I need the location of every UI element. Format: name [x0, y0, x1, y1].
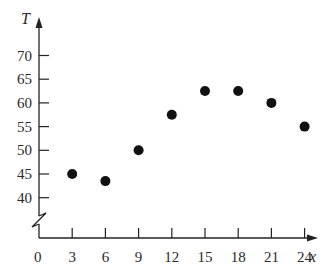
- y-tick-label: 45: [17, 166, 32, 182]
- data-point: [100, 176, 110, 186]
- y-tick-label: 70: [17, 48, 32, 64]
- y-tick-label: 50: [17, 142, 32, 158]
- x-origin-label: 0: [34, 249, 42, 265]
- data-point: [233, 86, 243, 96]
- data-points: [67, 86, 309, 186]
- y-tick-label: 65: [17, 71, 32, 87]
- x-axis-arrow-icon: [307, 235, 318, 242]
- data-point: [266, 98, 276, 108]
- data-point: [67, 169, 77, 179]
- x-tick-label: 15: [198, 249, 213, 265]
- axes: [32, 17, 318, 242]
- x-tick-label: 12: [164, 249, 179, 265]
- y-ticks: 40455055606570: [17, 48, 49, 206]
- y-tick-label: 40: [17, 190, 32, 206]
- y-axis-label: T: [21, 10, 31, 27]
- x-tick-label: 18: [231, 249, 246, 265]
- x-tick-label: 3: [68, 249, 76, 265]
- x-axis-label: x: [308, 248, 316, 265]
- x-ticks: 3691215182124: [68, 228, 312, 265]
- x-tick-label: 9: [135, 249, 143, 265]
- data-point: [300, 122, 310, 132]
- y-tick-label: 60: [17, 95, 32, 111]
- x-tick-label: 21: [264, 249, 279, 265]
- data-point: [200, 86, 210, 96]
- y-tick-label: 55: [17, 119, 32, 135]
- scatter-chart: 40455055606570 3691215182124 T x 0: [0, 0, 326, 268]
- x-tick-label: 6: [102, 249, 110, 265]
- data-point: [134, 145, 144, 155]
- data-point: [167, 110, 177, 120]
- y-axis-arrow-icon: [36, 17, 43, 28]
